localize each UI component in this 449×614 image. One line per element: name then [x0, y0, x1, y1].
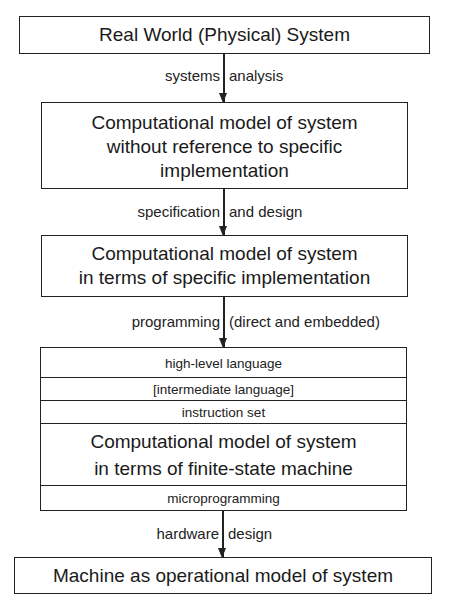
- arrow-2-label-left: specification: [137, 203, 220, 220]
- layer-microprogramming-label: microprogramming: [167, 491, 280, 506]
- box-abstract-line-1: Computational model of system: [91, 111, 357, 135]
- arrow-3-label-left: programming: [132, 313, 220, 330]
- box-abstract-computational-model: Computational model of system without re…: [41, 102, 408, 189]
- layer-instruction-set-label: instruction set: [182, 405, 265, 420]
- box-finite-state-machine-model: high-level language [intermediate langua…: [40, 347, 407, 511]
- layer-high-level-language: high-level language: [41, 348, 406, 378]
- layer-high-level-language-label: high-level language: [165, 356, 282, 371]
- arrow-systems-analysis: [223, 54, 225, 102]
- arrow-programming: [223, 297, 225, 347]
- layer-instruction-set: instruction set: [41, 400, 406, 423]
- box-machine-label: Machine as operational model of system: [53, 564, 393, 588]
- box-abstract-line-3: implementation: [160, 159, 289, 183]
- box-implementation-line-2: in terms of specific implementation: [79, 266, 370, 290]
- box-abstract-line-2: without reference to specific: [107, 135, 343, 159]
- box-real-world-label: Real World (Physical) System: [99, 23, 350, 47]
- arrow-4-label-right: design: [228, 525, 272, 542]
- box-real-world-system: Real World (Physical) System: [19, 16, 430, 54]
- arrow-3-label-right: (direct and embedded): [229, 313, 380, 330]
- arrow-4-label-left: hardware: [156, 525, 219, 542]
- layer-fsm-model: Computational model of system in terms o…: [41, 423, 406, 486]
- fsm-model-line-2: in terms of finite-state machine: [94, 455, 353, 482]
- box-implementation-line-1: Computational model of system: [91, 242, 357, 266]
- layer-microprogramming: microprogramming: [41, 485, 406, 510]
- arrow-2-label-right: and design: [229, 203, 302, 220]
- arrow-1-label-right: analysis: [229, 67, 283, 84]
- box-implementation-computational-model: Computational model of system in terms o…: [41, 235, 408, 297]
- layer-intermediate-language-label: [intermediate language]: [153, 382, 294, 397]
- arrow-hardware-design: [222, 511, 224, 557]
- layer-intermediate-language: [intermediate language]: [41, 377, 406, 400]
- box-machine-operational-model: Machine as operational model of system: [14, 557, 432, 594]
- arrow-1-label-left: systems: [165, 67, 220, 84]
- fsm-model-line-1: Computational model of system: [90, 428, 356, 455]
- arrow-specification-and-design: [223, 189, 225, 235]
